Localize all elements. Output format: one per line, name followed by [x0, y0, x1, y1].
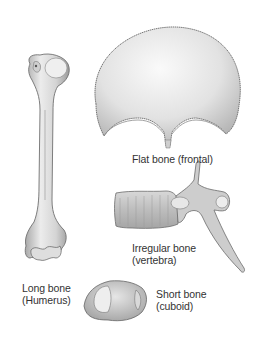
long-bone-label-line2: (Humerus) [22, 294, 71, 306]
long-bone-humerus-icon [25, 54, 69, 260]
irregular-bone-label-line1: Irregular bone [132, 242, 196, 254]
short-bone-label-line2: (cuboid) [156, 300, 206, 312]
irregular-bone-label: Irregular bone (vertebra) [132, 242, 196, 266]
short-bone-label: Short bone (cuboid) [156, 288, 206, 312]
flat-bone-frontal-icon [95, 27, 240, 148]
long-bone-label-line1: Long bone [22, 282, 71, 294]
long-bone-label: Long bone (Humerus) [22, 282, 71, 306]
short-bone-label-line1: Short bone [156, 288, 206, 300]
flat-bone-label: Flat bone (frontal) [132, 153, 213, 165]
short-bone-cuboid-icon [84, 281, 147, 321]
flat-bone-label-line1: Flat bone (frontal) [132, 153, 213, 165]
bone-shapes-diagram: Flat bone (frontal) Irregular bone (vert… [0, 0, 265, 339]
irregular-bone-label-line2: (vertebra) [132, 254, 196, 266]
